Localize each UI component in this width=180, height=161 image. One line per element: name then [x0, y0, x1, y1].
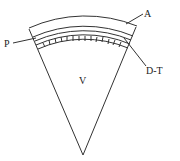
- sector-right-edge: [83, 27, 136, 155]
- label-a: A: [144, 8, 152, 19]
- label-p: P: [4, 38, 10, 49]
- leader-dt: [124, 38, 146, 66]
- label-dt: D-T: [146, 65, 163, 76]
- sector-diagram: A P D-T V: [0, 0, 180, 161]
- leader-p: [13, 38, 36, 43]
- leader-a: [126, 14, 143, 24]
- sector-left-edge: [29, 29, 83, 155]
- label-v: V: [79, 75, 87, 86]
